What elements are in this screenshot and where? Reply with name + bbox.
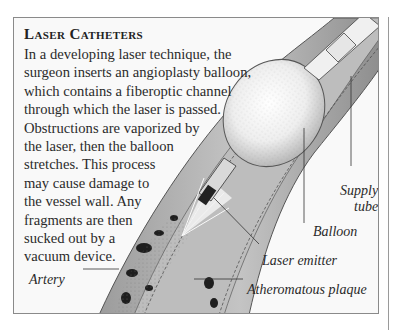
article-title: Laser Catheters	[24, 26, 143, 43]
body-line: the vessel wall. Any	[24, 192, 251, 210]
body-line: the laser, then the balloon	[24, 137, 251, 155]
sidebar-box: Laser Catheters In a developing laser te…	[13, 17, 379, 314]
body-line: through which the laser is passed.	[24, 100, 251, 118]
label-supply-tube: Supply tube	[340, 183, 378, 215]
body-line: stretches. This process	[24, 155, 251, 173]
article-body: In a developing laser technique, the sur…	[24, 45, 251, 266]
body-line: fragments are then	[24, 211, 251, 229]
body-line: Obstructions are vaporized by	[24, 119, 251, 137]
label-atheromatous-plaque: Atheromatous plaque	[247, 282, 367, 298]
label-artery: Artery	[29, 272, 65, 288]
page-column-rule	[388, 17, 389, 330]
label-balloon: Balloon	[313, 224, 357, 240]
body-line: may cause damage to	[24, 174, 251, 192]
body-line: In a developing laser technique, the	[24, 45, 251, 63]
label-laser-emitter: Laser emitter	[262, 253, 337, 269]
body-line: surgeon inserts an angioplasty balloon,	[24, 63, 251, 81]
body-line: vacuum device.	[24, 247, 251, 265]
body-line: which contains a fiberoptic channel	[24, 82, 251, 100]
body-line: sucked out by a	[24, 229, 251, 247]
